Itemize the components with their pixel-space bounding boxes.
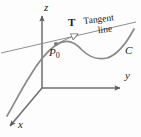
y-axis-label: y <box>125 70 130 81</box>
point-p0-letter: P <box>49 46 56 58</box>
x-axis-label: x <box>18 119 23 130</box>
tangent-vector-label: T <box>68 17 75 28</box>
space-curve-c <box>7 29 134 116</box>
z-axis-label: z <box>44 2 48 13</box>
tangent-vector-arrow <box>56 34 78 44</box>
tangent-line-figure: z y x P0 T C Tangentline <box>0 0 141 137</box>
tangent-line-text: Tangentline <box>83 13 116 37</box>
point-p0-label: P0 <box>49 47 60 60</box>
curve-label: C <box>125 45 132 56</box>
point-p0-subscript: 0 <box>56 51 60 60</box>
x-axis <box>10 88 42 126</box>
